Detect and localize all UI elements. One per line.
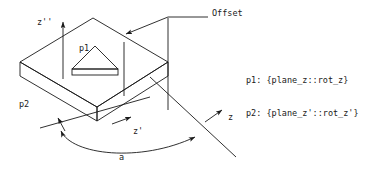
label-angle-alpha: a (119, 153, 124, 162)
z-prime-axis-line (40, 97, 150, 128)
z-axis-line (150, 77, 236, 157)
label-p1: p1 (79, 44, 89, 53)
triangle-base-bar (72, 69, 118, 75)
angle-arc (61, 131, 195, 153)
slab-solid (20, 18, 168, 121)
label-p2: p2 (19, 100, 29, 109)
z-axis (150, 77, 236, 157)
offset-arrow-line (126, 17, 168, 34)
slab-left-face (20, 62, 97, 121)
angle-arc-path (61, 131, 195, 153)
slab-top-face (20, 18, 168, 107)
label-offset: Offset (212, 9, 243, 18)
legend-row-p1: p1: {plane_z::rot_z} (246, 75, 359, 86)
legend-block: p1: {plane_z::rot_z} p2: {plane_z'::rot_… (246, 53, 359, 141)
z-prime-tick-arrow (58, 118, 65, 131)
z-prime-direction-arrow (112, 117, 131, 124)
label-z-double-prime: z'' (37, 18, 52, 27)
label-z-prime: z' (133, 127, 143, 136)
offset-dimension-arrow (126, 17, 208, 34)
diagram-canvas: z'' p1 p2 Offset z' z a p1: {plane_z::ro… (0, 0, 368, 173)
z-direction-arrow (205, 110, 222, 122)
legend-row-p2: p2: {plane_z'::rot_z'} (246, 108, 359, 119)
label-z: z (228, 113, 233, 122)
slab-front-face (97, 62, 168, 121)
